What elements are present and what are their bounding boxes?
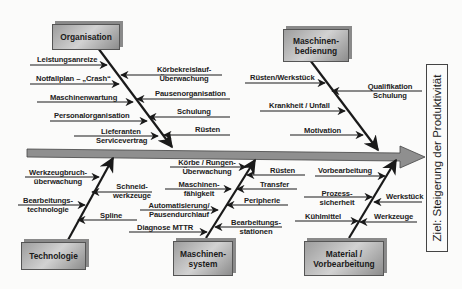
cause-label: Kühlmittel [305,213,341,222]
category-title: Maschinen-bedienung [293,36,339,56]
cause-label: Körbekreislauf-Überwachung [146,66,222,83]
category-title: Maschinen-system [180,249,226,269]
cause-label: Automatisierung/Pausendurchlauf [148,202,210,219]
cause-label: Spline [100,212,122,221]
cause-label: Maschinen-fähigkeit [175,181,223,198]
cause-label: Rüsten [195,126,220,135]
cause-label: Rüsten/Werkstück [250,74,315,83]
category-box-organisation: Organisation [52,24,120,50]
cause-label: Maschinenwartung [50,94,117,103]
cause-label: Werkzeuge [374,213,413,222]
category-box-material: Material /Vorbearbeitung [304,241,384,276]
cause-label: Vorbearbeitung [318,167,372,176]
cause-label: QualifikationSchulung [360,83,420,100]
cause-label: Peripherie [244,197,280,206]
category-box-technologie: Technologie [21,242,86,270]
cause-label: Notfallplan – „Crash“ [36,75,111,84]
cause-label: Schulung [177,108,211,117]
cause-label: Bearbeitungs-stationen [228,219,284,236]
category-title: Organisation [60,32,112,42]
cause-label: Prozess-sicherheit [315,190,359,207]
cause-label: Diagnose MTTR [137,224,193,233]
cause-label: Personalorganisation [54,112,130,121]
cause-label: Pausenorganisation [155,90,226,99]
cause-label: Motivation [304,127,341,136]
cause-label: LieferantenServicevertrag [96,128,146,145]
cause-label: Bearbeitungs-technologie [20,197,76,214]
cause-label: Körbe / Rungen-Überwachung [175,159,239,176]
cause-label: Leistungsanreize [37,56,97,65]
category-title: Technologie [29,251,78,261]
goal-label: Ziel: Steigerung der Produktivität [431,75,443,242]
cause-label: Transfer [260,181,289,190]
goal-box: Ziel: Steigerung der Produktivität [426,64,448,252]
cause-label: Schneid-werkzeuge [110,183,154,200]
category-box-maschinenbedienung: Maschinen-bedienung [283,29,349,62]
cause-label: Krankheit / Unfall [269,102,330,111]
cause-label: Werkstück [386,193,423,202]
category-title: Material /Vorbearbeitung [313,249,374,269]
cause-label: Werkzeugbruch-überwachung [27,169,89,186]
cause-label: Rüsten [270,167,295,176]
category-box-maschinensystem: Maschinen-system [173,241,233,276]
